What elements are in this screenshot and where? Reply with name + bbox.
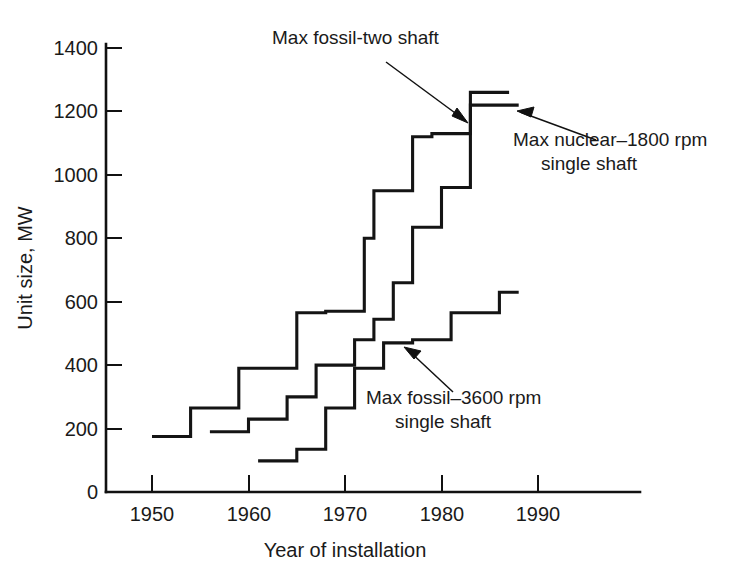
y-tick-label: 0 [87, 481, 98, 503]
x-tick-label: 1960 [227, 503, 272, 525]
x-tick-label: 1970 [323, 503, 368, 525]
annotation-nuclear-1800: Max nuclear–1800 rpm single shaft [513, 129, 707, 174]
arrow-head-nuclear-1800 [517, 107, 534, 117]
arrow-head-fossil-two-shaft [452, 108, 468, 123]
annotation-label-nuclear-1800-line2: single shaft [541, 153, 638, 174]
chart-figure: 0 200 400 600 800 1000 1200 1400 1950 19… [0, 0, 753, 572]
y-tick-label: 600 [65, 291, 98, 313]
annotation-label-fossil-two-shaft: Max fossil-two shaft [272, 27, 440, 48]
x-axis-title: Year of installation [264, 539, 427, 561]
annotation-label-nuclear-1800-line1: Max nuclear–1800 rpm [513, 129, 707, 150]
arrow-head-fossil-3600 [404, 347, 421, 359]
series-line-max-fossil-two-shaft [152, 92, 509, 436]
y-tick-label: 400 [65, 354, 98, 376]
x-axis-tick-labels: 1950 1960 1970 1980 1990 [130, 503, 561, 525]
x-tick-label: 1950 [130, 503, 175, 525]
x-tick-label: 1990 [516, 503, 561, 525]
y-tick-label: 1400 [54, 37, 99, 59]
y-axis-title: Unit size, MW [14, 206, 36, 329]
y-tick-label: 800 [65, 227, 98, 249]
annotation-label-fossil-3600-line1: Max fossil–3600 rpm [366, 387, 541, 408]
y-axis-ticks [106, 48, 122, 492]
annotation-fossil-3600: Max fossil–3600 rpm single shaft [366, 387, 541, 432]
annotation-fossil-two-shaft: Max fossil-two shaft [272, 27, 440, 48]
y-tick-label: 1000 [54, 164, 99, 186]
x-axis-ticks [152, 475, 538, 492]
x-tick-label: 1980 [420, 503, 465, 525]
y-tick-label: 1200 [54, 100, 99, 122]
y-axis-tick-labels: 0 200 400 600 800 1000 1200 1400 [54, 37, 99, 503]
annotation-label-fossil-3600-line2: single shaft [395, 411, 492, 432]
y-tick-label: 200 [65, 418, 98, 440]
chart-canvas: 0 200 400 600 800 1000 1200 1400 1950 19… [0, 0, 753, 572]
